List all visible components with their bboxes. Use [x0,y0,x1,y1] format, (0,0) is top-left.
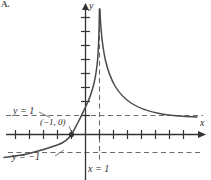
point-label-minus-1-0: (−1, 0) [40,118,66,127]
leader-line-intercept [69,126,71,132]
asymptote-y-equals-minus-1-label: y = −1 [12,152,40,162]
asymptote-x-equals-1-label: x = 1 [88,164,109,174]
panel-letter-label: A. [1,0,10,9]
x-axis-arrowhead [198,131,206,138]
point-marker-minus-1-0 [69,132,74,137]
figure-container: A. y x y = 1 y = −1 x = 1 (−1, 0) [0,0,211,180]
x-axis-label: x [200,118,204,128]
y-axis-label: y [89,1,93,11]
asymptote-y-equals-1-label: y = 1 [13,106,34,116]
curve-right-branch [100,9,197,117]
y-axis-arrowhead [82,3,89,10]
